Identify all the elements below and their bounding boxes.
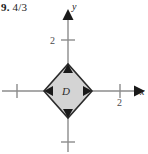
y-axis-tick-label-2: 2 [50, 35, 55, 46]
y-axis-label: y [71, 1, 77, 12]
coordinate-plane-diagram: D 2 2 y x [0, 0, 148, 154]
region-d-label: D [61, 85, 70, 97]
figure-container: 9. 4/3 D 2 2 y x [0, 0, 148, 154]
x-axis-label: x [139, 86, 145, 97]
x-axis-tick-label-2: 2 [117, 97, 122, 108]
